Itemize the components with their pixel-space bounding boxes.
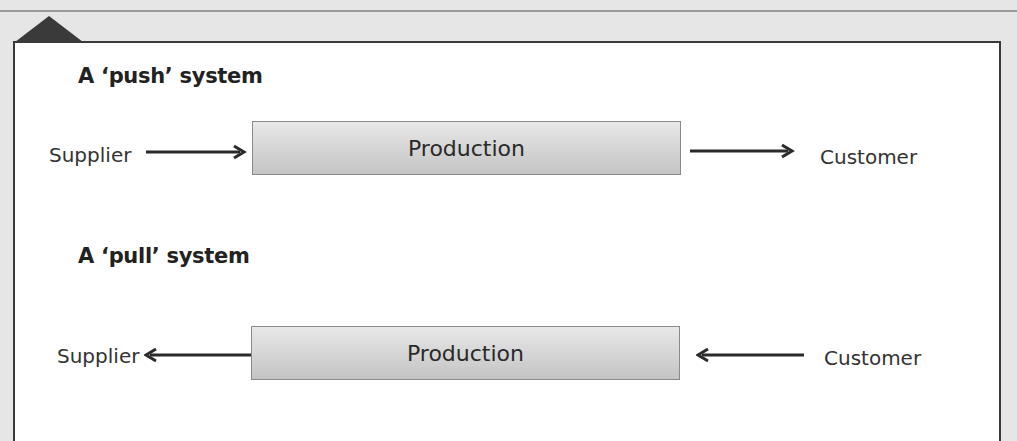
diagram-panel	[13, 41, 1001, 441]
push-supplier-label: Supplier	[49, 143, 131, 167]
arrow-left-icon	[696, 347, 808, 363]
top-rule	[0, 10, 1017, 12]
arrow-right-icon	[144, 144, 254, 160]
arrow-left-icon	[144, 347, 254, 363]
arrow-right-icon	[688, 143, 802, 159]
push-production-box: Production	[252, 121, 681, 175]
pull-supplier-label: Supplier	[57, 344, 139, 368]
pull-production-box: Production	[251, 326, 680, 380]
pull-production-label: Production	[407, 341, 524, 366]
pull-system-title: A ‘pull’ system	[78, 244, 250, 268]
push-system-title: A ‘push’ system	[78, 64, 263, 88]
corner-tab-icon	[15, 16, 83, 42]
push-customer-label: Customer	[820, 145, 917, 169]
pull-customer-label: Customer	[824, 346, 921, 370]
push-production-label: Production	[408, 136, 525, 161]
